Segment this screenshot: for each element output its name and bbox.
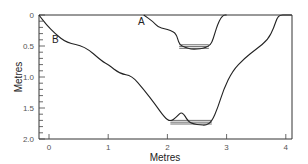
profile-A [144, 15, 227, 49]
x-tick-label: 3 [224, 143, 229, 152]
y-tick-label: 0.5 [23, 42, 35, 51]
profile-B [39, 15, 292, 125]
label-b: B [52, 34, 59, 45]
y-tick-label: 1.0 [23, 73, 35, 82]
y-tick-label: 1.5 [23, 104, 35, 113]
x-axis-label: Metres [150, 152, 181, 163]
y-axis-label: Metres [13, 62, 24, 93]
plot-frame [39, 15, 292, 139]
y-axis-ticks: 00.51.01.52.0 [23, 11, 45, 144]
x-tick-label: 0 [47, 143, 52, 152]
cross-section-chart: 00.51.01.52.0 01234 Metres Metres A B [0, 0, 308, 164]
x-axis-ticks: 01234 [47, 134, 289, 152]
x-tick-label: 4 [284, 143, 289, 152]
y-tick-label: 2.0 [23, 135, 35, 144]
profile-curves [39, 15, 292, 125]
label-a: A [138, 16, 145, 27]
x-tick-label: 2 [165, 143, 170, 152]
y-tick-label: 0 [30, 11, 35, 20]
x-tick-label: 1 [106, 143, 111, 152]
